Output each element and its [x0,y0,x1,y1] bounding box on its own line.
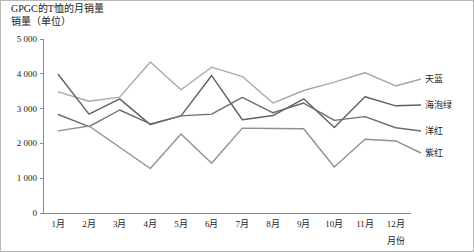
chart-screenshot: GPGC的T恤的月销量 销量（单位） 01 0002 0003 0004 000… [0,0,474,252]
legend-label-1: 海泡绿 [425,99,452,110]
x-axis-tick-label: 6月 [205,219,219,229]
legend-label-3: 紫红 [425,147,443,158]
x-axis-tick-label: 1月 [52,219,66,229]
y-axis-tick-label: 0 [33,208,38,218]
x-axis-tick-label: 10月 [325,219,343,229]
x-axis-tick-label: 5月 [174,219,188,229]
x-axis-tick-label: 8月 [266,219,280,229]
series-line-2 [58,97,395,127]
legend-connector-3 [396,141,421,153]
y-axis: 01 0002 0003 0004 0005 000 [17,34,43,218]
chart-legend: 天蓝海泡绿洋红紫红 [396,73,452,158]
y-axis-tick-label: 4 000 [17,69,38,79]
y-axis-tick-label: 3 000 [17,104,38,114]
x-axis-tick-label: 3月 [113,219,127,229]
x-axis-tick-label: 11月 [356,219,374,229]
legend-label-0: 天蓝 [425,73,443,84]
x-axis-tick-label: 2月 [82,219,96,229]
x-axis-tick-label: 12月 [387,219,405,229]
y-axis-tick-label: 5 000 [17,34,38,44]
x-axis-title-group: 月份 [387,235,405,246]
x-axis-tick-label: 4月 [144,219,158,229]
y-axis-tick-label: 2 000 [17,138,38,148]
y-axis-tick-label: 1 000 [17,173,38,183]
x-axis: 1月2月3月4月5月6月7月8月9月10月11月12月 [43,213,411,229]
x-axis-tick-label: 9月 [297,219,311,229]
legend-connector-1 [396,105,421,106]
x-axis-tick-label: 7月 [236,219,250,229]
legend-label-2: 洋红 [425,125,443,136]
series-line-3 [58,126,395,168]
x-axis-title: 月份 [387,235,405,246]
line-chart-plot: 01 0002 0003 0004 0005 000 1月2月3月4月5月6月7… [1,1,474,252]
legend-connector-0 [396,79,421,86]
legend-connector-2 [396,128,421,131]
series-lines [58,62,395,168]
